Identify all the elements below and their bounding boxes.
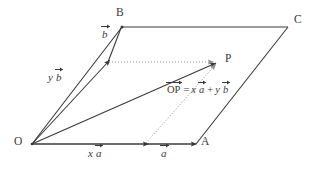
plus-sign: +: [207, 84, 213, 95]
point-label-C: C: [294, 14, 302, 26]
vector-arrowhead-icon: [60, 67, 63, 71]
point-label-O: O: [14, 136, 22, 148]
vector-arrowhead-icon: [107, 24, 110, 28]
equals-sign: =: [183, 84, 189, 95]
side-OB: [32, 27, 122, 144]
vector-arrowhead-icon: [166, 143, 169, 147]
vector-diagram-figure: O A B C P xa a yb b OP=xa+yb: [0, 0, 326, 169]
scalar-y: y: [48, 71, 53, 83]
vector-arrowhead-icon: [100, 143, 103, 147]
scalar-y: y: [215, 84, 220, 95]
vector-OP-glyph: OP: [166, 85, 181, 96]
vector-label-y-b: yb: [48, 72, 62, 83]
point-label-B: B: [116, 7, 124, 19]
vector-b-glyph: b: [101, 29, 109, 40]
vector-a-glyph: a: [198, 85, 205, 96]
vector-b: [108, 28, 121, 62]
vector-label-x-a: xa: [88, 148, 102, 159]
tick-dot-xa-end: [145, 143, 147, 145]
vector-arrowhead-icon: [227, 80, 230, 84]
vector-label-b: b: [101, 29, 109, 40]
vector-y-b: [32, 62, 108, 144]
vector-label-a: a: [160, 148, 168, 159]
point-label-P: P: [225, 53, 231, 65]
equation-label-OP: OP=xa+yb: [166, 85, 229, 96]
vector-arrowhead-icon: [203, 80, 206, 84]
vector-a-glyph: a: [95, 148, 103, 159]
vector-arrowhead-icon: [179, 81, 182, 85]
point-label-A: A: [201, 136, 209, 148]
scalar-x: x: [191, 84, 196, 95]
vector-b-glyph: b: [55, 72, 63, 83]
scalar-x: x: [88, 147, 93, 159]
vector-diagram-canvas: [0, 0, 326, 169]
vector-b-glyph: b: [222, 85, 229, 96]
vector-a-glyph: a: [160, 148, 168, 159]
